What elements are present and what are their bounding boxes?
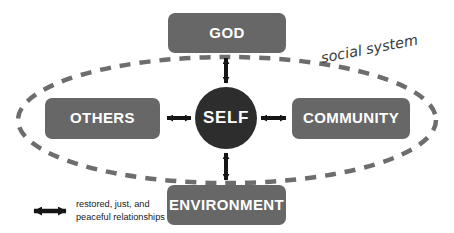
node-community-label: COMMUNITY (303, 109, 399, 126)
node-god-label: GOD (209, 24, 244, 41)
legend: restored, just, and peaceful relationshi… (34, 199, 165, 222)
node-god[interactable]: GOD (168, 13, 286, 53)
node-self[interactable]: SELF (195, 87, 257, 149)
node-others-label: OTHERS (70, 109, 135, 126)
social-system-label: social system (320, 31, 420, 65)
legend-line-1: restored, just, and (76, 199, 150, 209)
diagram-canvas: GOD OTHERS COMMUNITY ENVIRONMENT SELF so… (0, 0, 454, 233)
node-environment[interactable]: ENVIRONMENT (167, 185, 286, 225)
node-others[interactable]: OTHERS (45, 98, 160, 139)
social-system-diagram: GOD OTHERS COMMUNITY ENVIRONMENT SELF so… (0, 0, 454, 233)
legend-line-2: peaceful relationships (76, 212, 165, 222)
node-self-label: SELF (203, 108, 249, 127)
node-environment-label: ENVIRONMENT (169, 196, 284, 213)
node-community[interactable]: COMMUNITY (292, 98, 410, 139)
